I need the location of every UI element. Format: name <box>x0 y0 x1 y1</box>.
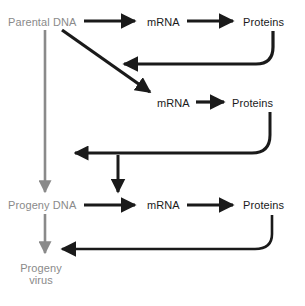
node-progeny-virus-line1: Progeny <box>9 262 73 274</box>
node-progeny-virus: Progeny virus <box>9 262 73 286</box>
node-mrna-2: mRNA <box>157 97 190 109</box>
node-proteins-1: Proteins <box>243 16 284 28</box>
arrow-parental-dna-to-mrna2 <box>62 30 150 92</box>
node-mrna-1: mRNA <box>147 16 180 28</box>
node-proteins-2: Proteins <box>232 97 273 109</box>
node-proteins-3: Proteins <box>243 199 284 211</box>
arrow-proteins3-feedback <box>62 215 272 249</box>
flow-arrows-svg <box>0 0 305 306</box>
node-progeny-dna: Progeny DNA <box>8 199 76 211</box>
arrow-proteins1-feedback <box>124 31 273 64</box>
node-parental-dna: Parental DNA <box>8 16 76 28</box>
viral-replication-diagram: Parental DNA mRNA Proteins mRNA Proteins… <box>0 0 305 306</box>
node-progeny-virus-line2: virus <box>9 274 73 286</box>
node-mrna-3: mRNA <box>147 199 180 211</box>
arrow-proteins2-feedback <box>75 112 270 153</box>
